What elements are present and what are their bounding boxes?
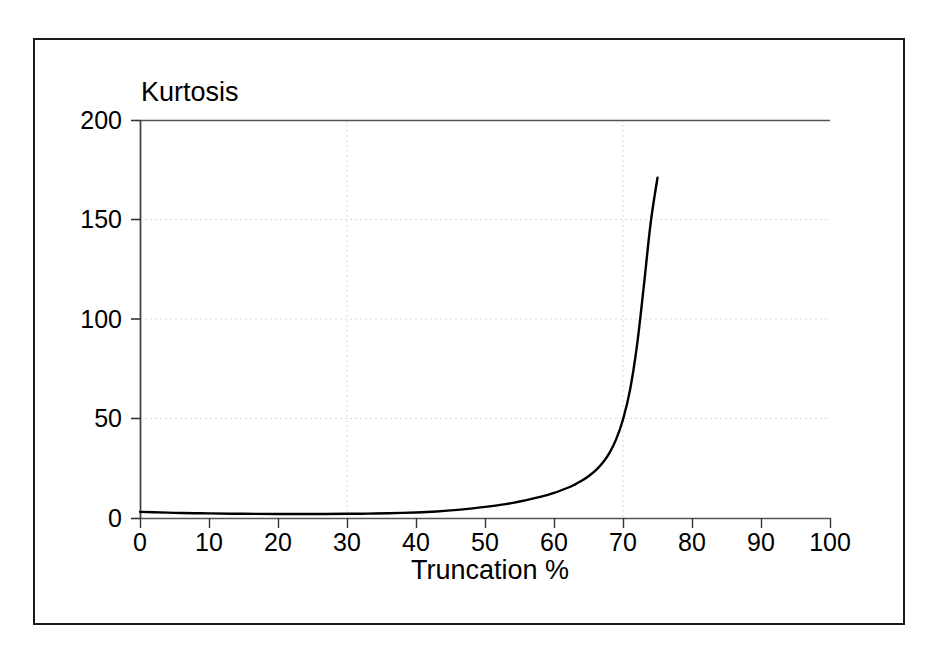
x-tick-label-60: 60: [524, 530, 584, 555]
x-tick-label-20: 20: [248, 530, 308, 555]
y-tick-label-150: 150: [58, 207, 122, 232]
x-axis-ticks: [141, 518, 831, 528]
y-axis-ticks: [131, 121, 140, 519]
y-tick-label-100: 100: [58, 307, 122, 332]
kurtosis-curve: [140, 178, 658, 514]
x-axis-title: Truncation %: [340, 557, 640, 584]
x-tick-label-0: 0: [110, 530, 170, 555]
y-tick-label-200: 200: [58, 108, 122, 133]
figure-container: Kurtosis Truncation % 0 50 100 150 200 0…: [0, 0, 937, 663]
x-tick-label-10: 10: [179, 530, 239, 555]
x-tick-label-50: 50: [455, 530, 515, 555]
y-tick-label-0: 0: [58, 506, 122, 531]
x-tick-label-70: 70: [593, 530, 653, 555]
x-tick-label-100: 100: [800, 530, 860, 555]
x-tick-label-90: 90: [731, 530, 791, 555]
y-axis-title: Kurtosis: [141, 79, 239, 106]
x-tick-label-80: 80: [662, 530, 722, 555]
y-tick-label-50: 50: [58, 406, 122, 431]
horizontal-gridlines: [140, 220, 830, 419]
x-tick-label-30: 30: [317, 530, 377, 555]
x-tick-label-40: 40: [386, 530, 446, 555]
